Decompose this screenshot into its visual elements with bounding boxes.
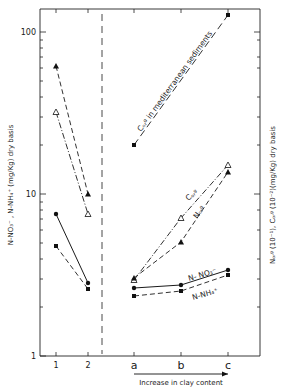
x-tick-2: 2 xyxy=(85,361,90,370)
x-ticks xyxy=(56,9,228,356)
y-tick-100: 100 xyxy=(21,28,36,37)
x-axis-arrow xyxy=(134,372,228,377)
x-tick-1: 1 xyxy=(53,361,58,370)
series-norg xyxy=(53,63,231,281)
left-y-ticks xyxy=(40,32,46,356)
x-tick-b: b xyxy=(178,359,185,372)
annotation-n-nh4: N-NH₄⁺ xyxy=(191,286,219,302)
annotation-norg: Nₒᵣᵍ xyxy=(191,204,206,220)
y-axis-label-left: N-NO₃⁻ , N-NH₄⁺ (mg/Kg) dry basis xyxy=(7,124,15,245)
y-tick-10: 10 xyxy=(26,190,36,199)
plot-frame xyxy=(40,9,260,356)
series-corg xyxy=(53,109,231,283)
x-tick-a: a xyxy=(131,359,138,372)
y-axis-label-right: Nₒᵣᵍ (10⁻¹), Cₒᵣᵍ (10⁻²)(mg/Kg) dry basi… xyxy=(269,126,277,264)
x-axis-label: Increase in clay content xyxy=(139,379,223,387)
x-tick-c: c xyxy=(225,359,231,372)
right-y-ticks xyxy=(254,32,260,307)
annotation-corg-sediments: Cₒᵣᵍ in mediterranean sediments xyxy=(135,29,214,133)
y-tick-1: 1 xyxy=(31,352,36,361)
annotation-corg: Cₒᵣᵍ xyxy=(184,187,200,202)
chart: 100 10 1 1 2 a b c Increase in clay cont… xyxy=(0,0,286,392)
